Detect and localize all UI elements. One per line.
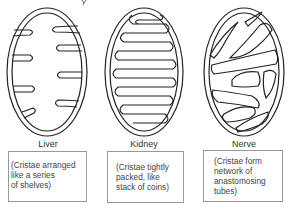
nerve-description-line: anastomosing — [214, 176, 266, 186]
nerve-description-line: (Cristae form — [214, 156, 266, 166]
nerve-description-line: tubes) — [214, 186, 266, 196]
nerve-description-line: network of — [214, 166, 266, 176]
kidney-description-line: stack of coins) — [116, 182, 169, 192]
nerve-label: Nerve — [204, 139, 284, 149]
liver-description-box: (Cristae arranged like a series of shelv… — [8, 151, 87, 202]
kidney-description-box: (Cristae tightly packed, like stack of c… — [107, 151, 184, 203]
kidney-description-line: packed, like — [116, 172, 169, 182]
kidney-description-line: (Cristae tightly — [116, 162, 169, 172]
kidney-label: Kidney — [104, 139, 184, 149]
clipped-title-fragment — [82, 0, 86, 5]
liver-description-line: (Cristae arranged — [11, 160, 76, 170]
nerve-mitochondrion — [204, 8, 284, 136]
kidney-mitochondrion — [105, 8, 183, 136]
liver-description-line: like a series — [11, 170, 76, 180]
liver-label: Liver — [8, 139, 88, 149]
nerve-description-box: (Cristae form network of anastomosing tu… — [203, 150, 283, 202]
liver-description-line: of shelves) — [11, 180, 76, 190]
liver-mitochondrion — [7, 8, 87, 136]
